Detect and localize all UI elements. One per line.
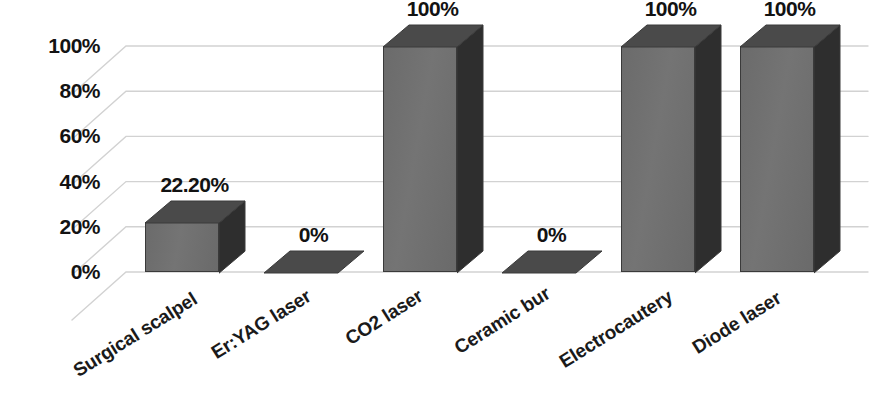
x-axis-category-label: CO2 laser — [342, 286, 426, 348]
x-axis-category-label: Surgical scalpel — [70, 289, 200, 380]
cropped-caption — [0, 407, 876, 419]
x-axis-category-label: Er:YAG laser — [208, 286, 314, 362]
x-axis-category-label: Electrocautery — [556, 287, 676, 372]
x-axis-category-label: Ceramic bur — [451, 284, 553, 358]
x-axis-category-label: Diode laser — [689, 288, 784, 357]
x-axis-category-labels: Surgical scalpelEr:YAG laserCO2 laserCer… — [0, 0, 876, 419]
bar-chart: 0%20%40%60%80%100% 22.20%0%100%0%100%100… — [0, 0, 876, 419]
